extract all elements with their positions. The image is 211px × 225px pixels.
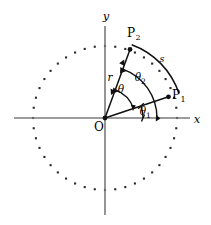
circle-dot [84, 48, 86, 50]
arc-label-theta2-subscript: 2 [141, 77, 146, 86]
point-label-p2: P [127, 26, 135, 40]
circle-dot [165, 78, 167, 80]
point-label-p1-subscript: 1 [180, 95, 185, 104]
y-axis-label: y [102, 9, 110, 23]
circle-dot [74, 182, 76, 184]
circle-dot [57, 63, 59, 65]
circle-dot [65, 56, 67, 58]
figure-canvas: x y O P 1 P 2 θ 1 θ 2 θ s r [0, 0, 211, 225]
measure-label-r: r [107, 71, 113, 83]
circle-dot [143, 178, 145, 180]
origin-label: O [94, 120, 104, 134]
circle-dot [114, 188, 116, 190]
circle-dot [158, 70, 160, 72]
circle-dot [38, 147, 40, 149]
circle-dot [94, 188, 96, 190]
circle-dot [35, 137, 37, 139]
arc-label-theta: θ [118, 83, 125, 95]
circle-dot [134, 51, 136, 53]
point-label-p1: P [172, 88, 180, 102]
circle-dot [124, 186, 126, 188]
circle-dot [50, 70, 52, 72]
circle-dot [173, 137, 175, 139]
circle-dot [169, 147, 171, 149]
arc-label-s: s [160, 53, 165, 64]
circle-dot [33, 107, 35, 109]
circle-dot [50, 164, 52, 166]
point-marker-p1 [166, 94, 171, 99]
circle-dot [57, 171, 59, 173]
circle-dot [151, 171, 153, 173]
circle-dot [94, 46, 96, 48]
circle-dot [43, 156, 45, 158]
circle-dot [114, 46, 116, 48]
circle-dot [158, 164, 160, 166]
arc-s [132, 45, 179, 94]
circle-dot [84, 186, 86, 188]
circle-dot [151, 63, 153, 65]
circle-dot [33, 127, 35, 129]
circle-dot [175, 107, 177, 109]
arc-label-theta1-subscript: 1 [146, 111, 151, 120]
x-axis-label: x [194, 112, 201, 126]
circle-dot [43, 78, 45, 80]
circle-dot [175, 127, 177, 129]
circle-dot [165, 156, 167, 158]
circle-dot [134, 182, 136, 184]
circle-dot [124, 48, 126, 50]
polar-arc-length-figure: x y O P 1 P 2 θ 1 θ 2 θ s r [0, 0, 211, 225]
arrow-r-outer [119, 60, 124, 66]
segment-o-to-p1 [105, 97, 169, 118]
circle-dot [65, 178, 67, 180]
point-label-p2-subscript: 2 [135, 33, 140, 42]
circle-dot [35, 97, 37, 99]
circle-dot [74, 51, 76, 53]
circle-dot [143, 56, 145, 58]
point-marker-p2 [128, 47, 133, 52]
circle-dot [38, 87, 40, 89]
